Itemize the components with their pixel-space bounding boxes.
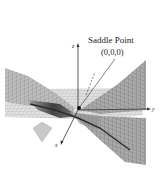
x-axis-label: x: [54, 142, 58, 148]
saddle-right-wing-upper: [80, 60, 146, 114]
saddle-point-coords: (0,0,0): [101, 47, 124, 57]
z-axis-label: z: [71, 43, 75, 49]
saddle-point-marker: [77, 106, 81, 110]
saddle-surface-diagram: z y x Saddle Point (0,0,0): [0, 0, 162, 172]
y-axis-label: y: [151, 106, 155, 112]
saddle-point-title: Saddle Point: [88, 35, 134, 45]
